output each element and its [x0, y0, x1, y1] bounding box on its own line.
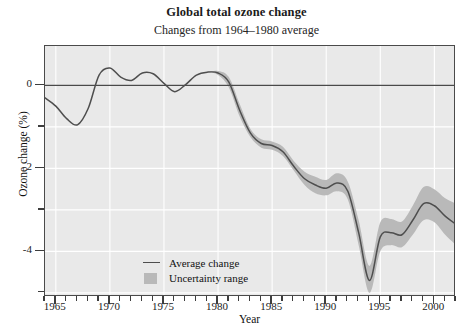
x-axis-tick-label: 2000	[408, 300, 458, 312]
plot-svg	[45, 46, 455, 296]
y-axis-tick-minor	[38, 291, 44, 292]
average-change-line	[45, 68, 455, 280]
chart-legend: Average change Uncertainty range	[141, 255, 248, 285]
chart-title: Global total ozone change	[0, 5, 473, 20]
legend-label-average-change: Average change	[169, 257, 239, 269]
y-axis-tick-major	[35, 84, 44, 86]
y-axis-title: Ozone change (%)	[17, 79, 29, 229]
x-axis-tick-label: 1985	[246, 300, 296, 312]
uncertainty-band	[45, 68, 455, 293]
legend-item-average-change: Average change	[141, 255, 248, 270]
x-axis-title: Year	[44, 313, 455, 325]
x-axis-tick-label: 1990	[300, 300, 350, 312]
legend-line-swatch-icon	[141, 257, 163, 269]
plot-area: Average change Uncertainty range	[44, 45, 455, 296]
legend-label-uncertainty-range: Uncertainty range	[169, 272, 248, 284]
chart-container: Global total ozone change Changes from 1…	[0, 0, 473, 331]
legend-item-uncertainty-range: Uncertainty range	[141, 270, 248, 285]
x-axis-tick-label: 1995	[354, 300, 404, 312]
chart-subtitle: Changes from 1964–1980 average	[0, 23, 473, 38]
y-axis-tick-major	[35, 167, 44, 169]
y-axis-tick-major	[35, 250, 44, 252]
x-axis-tick-label: 1965	[30, 300, 80, 312]
legend-band-swatch-icon	[141, 272, 163, 284]
gridlines	[45, 46, 455, 296]
x-axis-tick-label: 1980	[192, 300, 242, 312]
y-axis-tick-minor	[38, 125, 44, 126]
y-axis-tick-label: -4	[8, 243, 32, 255]
y-axis-tick-minor	[38, 208, 44, 209]
x-axis-tick-label: 1975	[138, 300, 188, 312]
x-axis-tick-label: 1970	[84, 300, 134, 312]
